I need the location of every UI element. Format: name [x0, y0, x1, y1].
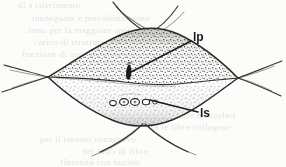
left-fiber-bundle — [2, 65, 48, 92]
anatomical-drawing — [0, 0, 286, 167]
bottom-fiber-bundle — [92, 124, 196, 156]
label-ls: ls — [200, 107, 210, 119]
figure-root: di a riferimento inadeguata e prevalente… — [0, 0, 286, 167]
right-fiber-bundle — [238, 61, 282, 96]
label-lp: lp — [193, 31, 204, 43]
